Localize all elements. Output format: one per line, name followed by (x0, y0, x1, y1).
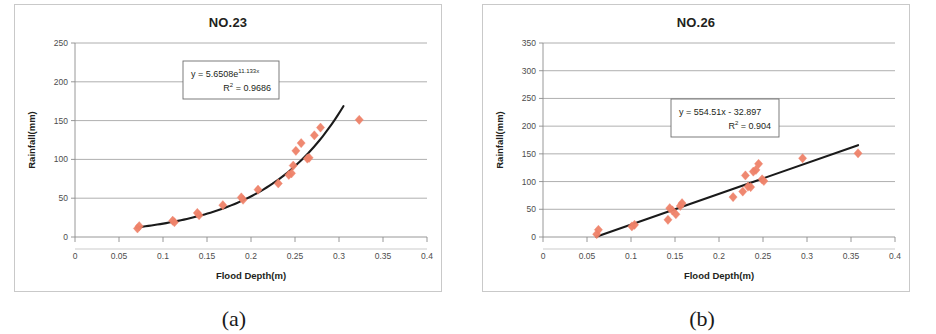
x-axis-tick-label: 0.25 (287, 251, 304, 261)
x-axis-tick-label: 0.4 (889, 251, 901, 261)
data-point-marker (292, 146, 300, 155)
y-axis-tick-label: 200 (522, 121, 536, 131)
x-axis-tick-label: 0.3 (333, 251, 345, 261)
y-axis-tick-label: 250 (54, 38, 68, 48)
data-point-marker (854, 149, 862, 158)
x-axis-tick-label: 0 (541, 251, 546, 261)
y-axis-tick-label: 0 (531, 232, 536, 242)
y-axis-tick-label: 350 (522, 38, 536, 48)
x-axis-tick-label: 0.35 (375, 251, 392, 261)
x-axis-tick-label: 0.4 (421, 251, 433, 261)
x-axis-tick-label: 0.1 (157, 251, 169, 261)
x-axis-tick-label: 0.25 (755, 251, 772, 261)
equation-text: y = 554.51x - 32.897 (679, 107, 761, 117)
trendline (137, 106, 344, 227)
figure-container: NO.23 05010015020025000.050.10.150.20.25… (0, 0, 936, 334)
x-axis-title: Flood Depth(m) (684, 270, 754, 281)
data-point-marker (254, 185, 262, 194)
y-axis-tick-label: 150 (54, 116, 68, 126)
x-axis-title: Flood Depth(m) (216, 270, 286, 281)
data-point-marker (664, 215, 672, 224)
x-axis-tick-label: 0.05 (579, 251, 596, 261)
data-point-marker (729, 192, 737, 201)
x-axis-tick-label: 0.2 (713, 251, 725, 261)
y-axis-tick-label: 150 (522, 149, 536, 159)
chart-svg-a: 05010015020025000.050.10.150.20.250.30.3… (15, 5, 441, 291)
plot-area-b: 05010015020025030035000.050.10.150.20.25… (483, 5, 909, 291)
x-axis-tick-label: 0.15 (667, 251, 684, 261)
data-point-marker (316, 123, 324, 132)
data-point-marker (297, 139, 305, 148)
chart-svg-b: 05010015020025030035000.050.10.150.20.25… (483, 5, 909, 291)
y-axis-title: Rainfall(mm) (494, 111, 505, 169)
y-axis-tick-label: 50 (527, 204, 537, 214)
equation-exponent: 11.133x (238, 68, 259, 74)
y-axis-tick-label: 200 (54, 77, 68, 87)
x-axis-tick-label: 0.15 (199, 251, 216, 261)
y-axis-tick-label: 100 (522, 177, 536, 187)
y-axis-tick-label: 50 (59, 193, 69, 203)
equation-box (183, 61, 279, 99)
y-axis-title: Rainfall(mm) (26, 111, 37, 169)
x-axis-tick-label: 0 (73, 251, 78, 261)
chart-panel-b: NO.26 05010015020025030035000.050.10.150… (468, 0, 936, 334)
x-axis-tick-label: 0.3 (801, 251, 813, 261)
figure-caption-b: (b) (468, 306, 936, 332)
y-axis-tick-label: 100 (54, 154, 68, 164)
r-squared-value: = 0.9686 (233, 83, 271, 93)
x-axis-tick-label: 0.1 (625, 251, 637, 261)
plot-area-a: 05010015020025000.050.10.150.20.250.30.3… (15, 5, 441, 291)
data-point-marker (274, 179, 282, 188)
y-axis-tick-label: 300 (522, 66, 536, 76)
y-axis-tick-label: 250 (522, 93, 536, 103)
x-axis-tick-label: 0.35 (843, 251, 860, 261)
x-axis-tick-label: 0.05 (111, 251, 128, 261)
data-point-marker (355, 115, 363, 124)
r-squared-text: R2 = 0.904 (728, 120, 771, 131)
y-axis-tick-label: 0 (63, 232, 68, 242)
r-squared-value: = 0.904 (738, 121, 771, 131)
chart-frame-a: NO.23 05010015020025000.050.10.150.20.25… (14, 4, 442, 292)
x-axis-tick-label: 0.2 (245, 251, 257, 261)
data-point-marker (799, 154, 807, 163)
chart-frame-b: NO.26 05010015020025030035000.050.10.150… (482, 4, 910, 292)
equation-box (671, 99, 779, 137)
data-point-marker (310, 131, 318, 140)
data-point-marker (741, 171, 749, 180)
figure-caption-a: (a) (0, 306, 468, 332)
chart-panel-a: NO.23 05010015020025000.050.10.150.20.25… (0, 0, 468, 334)
